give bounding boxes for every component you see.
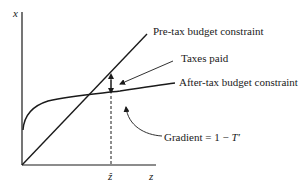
y-axis-label: x <box>13 8 18 19</box>
gradient-label-var: T′ <box>231 131 240 143</box>
x-axis-label: z <box>149 171 153 182</box>
after-tax-budget-curve <box>23 83 175 130</box>
budget-constraint-diagram: x z ẑ Pre-tax budget constraint Taxes pa… <box>0 0 305 192</box>
gradient-label: Gradient = 1 − T′ <box>164 132 240 143</box>
gradient-label-prefix: Gradient = 1 − <box>164 131 231 143</box>
z-hat-label: ẑ <box>108 171 112 182</box>
taxes-paid-label: Taxes paid <box>181 53 228 64</box>
pre-tax-label: Pre-tax budget constraint <box>153 26 264 37</box>
gradient-leader-arrow <box>126 107 162 136</box>
after-tax-label: After-tax budget constraint <box>179 77 298 88</box>
taxes-paid-leader-arrow <box>120 61 173 84</box>
pre-tax-budget-line <box>22 34 147 165</box>
